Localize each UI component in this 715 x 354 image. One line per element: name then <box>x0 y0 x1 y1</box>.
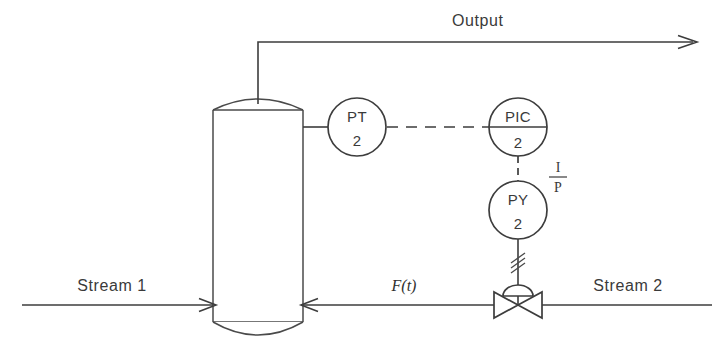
stream-2-group: Stream 2 <box>542 277 712 305</box>
vessel-bottom-head <box>213 322 303 335</box>
stream-1-group: Stream 1 <box>22 277 216 312</box>
control-valve-group[interactable] <box>494 285 542 318</box>
pt-bubble-number: 2 <box>353 132 361 149</box>
stream-1-label: Stream 1 <box>77 277 147 294</box>
py-bubble-tag: PY <box>508 191 529 208</box>
pid-drawing: Output PT 2 <box>0 0 715 354</box>
pt-bubble-tag: PT <box>347 108 367 125</box>
output-pipe-line <box>258 42 693 96</box>
pneumatic-signal-line-group <box>511 239 525 288</box>
flow-function-label: F(t) <box>391 277 417 295</box>
valve-actuator-diaphragm[interactable] <box>503 285 533 296</box>
pid-diagram-canvas: Output PT 2 <box>0 0 715 354</box>
stream-2-label: Stream 2 <box>593 277 663 294</box>
vessel-group <box>213 96 303 335</box>
py-bubble-number: 2 <box>514 215 522 232</box>
instrument-bubble-pt-2[interactable]: PT 2 <box>328 98 386 156</box>
instrument-bubble-py-2[interactable]: PY 2 <box>489 181 547 239</box>
instrument-bubble-pic-2[interactable]: PIC 2 <box>489 98 547 156</box>
pic-bubble-number: 2 <box>514 134 522 151</box>
recycle-flow-group: F(t) <box>301 277 494 312</box>
output-label: Output <box>452 12 504 29</box>
output-stream-group: Output <box>258 12 697 96</box>
i-over-p-label-group: I P <box>549 160 567 195</box>
transducer-numerator-label: I <box>556 160 561 175</box>
transducer-denominator-label: P <box>554 180 562 195</box>
pic-bubble-tag: PIC <box>505 108 531 125</box>
